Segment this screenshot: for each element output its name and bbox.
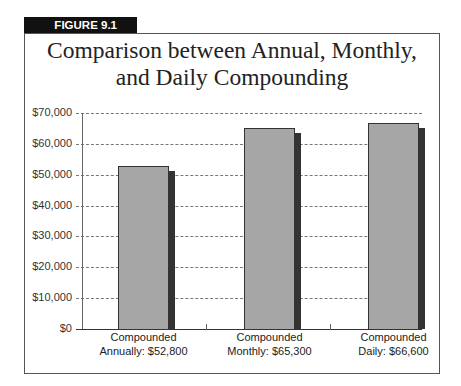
y-tick-label: $20,000 (32, 260, 72, 272)
x-tick (206, 324, 207, 330)
bar (368, 123, 419, 330)
bar (118, 166, 169, 330)
y-axis (82, 113, 83, 329)
chart-title-line-2: and Daily Compounding (24, 64, 440, 91)
y-tick-label: $0 (60, 322, 72, 334)
y-tick-label: $60,000 (32, 137, 72, 149)
bar (244, 128, 295, 330)
bar-shadow (169, 171, 175, 329)
y-tick-label: $50,000 (32, 168, 72, 180)
gridline (76, 113, 422, 114)
x-category-label: CompoundedMonthly: $65,300 (210, 331, 330, 358)
y-tick-label: $40,000 (32, 199, 72, 211)
x-category-label: CompoundedDaily: $66,600 (334, 331, 454, 358)
chart-title: Comparison between Annual, Monthly, and … (24, 37, 440, 91)
y-tick-label: $10,000 (32, 291, 72, 303)
y-tick-label: $30,000 (32, 229, 72, 241)
chart-title-line-1: Comparison between Annual, Monthly, (24, 37, 440, 64)
x-category-label: CompoundedAnnually: $52,800 (84, 331, 204, 358)
x-tick (330, 324, 331, 330)
figure-label: FIGURE 9.1 (24, 17, 137, 34)
bar-shadow (419, 128, 425, 329)
bar-shadow (295, 133, 301, 329)
y-tick-label: $70,000 (32, 106, 72, 118)
